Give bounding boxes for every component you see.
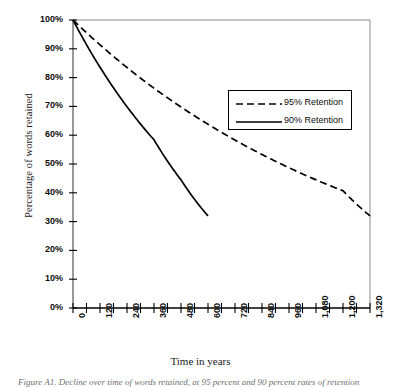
y-tick-label: 60% — [29, 130, 63, 139]
x-tick-label: 720 — [240, 303, 249, 318]
x-tick-label: 120 — [105, 303, 114, 318]
x-tick-label: 240 — [132, 303, 141, 318]
x-tick-label: 0 — [78, 313, 87, 318]
legend-entry-90-retention: 90% Retention — [229, 111, 353, 129]
y-tick-label: 70% — [29, 101, 63, 110]
plot-frame — [73, 20, 370, 308]
x-tick-label: 840 — [267, 303, 276, 318]
legend-entry-95-retention: 95% Retention — [229, 93, 353, 111]
x-tick-label: 360 — [159, 303, 168, 318]
y-tick-label: 0% — [29, 303, 63, 312]
y-tick-label: 90% — [29, 44, 63, 53]
figure-caption: Figure A1. Decline over time of words re… — [18, 377, 388, 387]
legend-label-95-retention: 95% Retention — [284, 97, 343, 107]
y-tick-label: 40% — [29, 188, 63, 197]
legend-swatch-dashed — [235, 96, 283, 108]
series-90-retention-line — [73, 20, 208, 216]
figure-container: Percentage of words retained Time in yea… — [0, 0, 401, 387]
y-tick-label: 50% — [29, 159, 63, 168]
legend-swatch-solid — [235, 114, 283, 126]
legend-label-90-retention: 90% Retention — [284, 115, 343, 125]
x-tick-label: 1,080 — [321, 295, 330, 318]
y-tick-label: 80% — [29, 73, 63, 82]
x-axis-title: Time in years — [0, 355, 401, 367]
x-tick-label: 1,200 — [348, 295, 357, 318]
y-tick-label: 30% — [29, 217, 63, 226]
x-tick-label: 960 — [294, 303, 303, 318]
y-tick-label: 10% — [29, 274, 63, 283]
x-tick-label: 600 — [213, 303, 222, 318]
chart-legend: 95% Retention 90% Retention — [228, 90, 352, 130]
x-tick-label: 480 — [186, 303, 195, 318]
y-tick-label: 20% — [29, 245, 63, 254]
x-tick-label: 1,320 — [375, 295, 384, 318]
y-tick-label: 100% — [29, 15, 63, 24]
